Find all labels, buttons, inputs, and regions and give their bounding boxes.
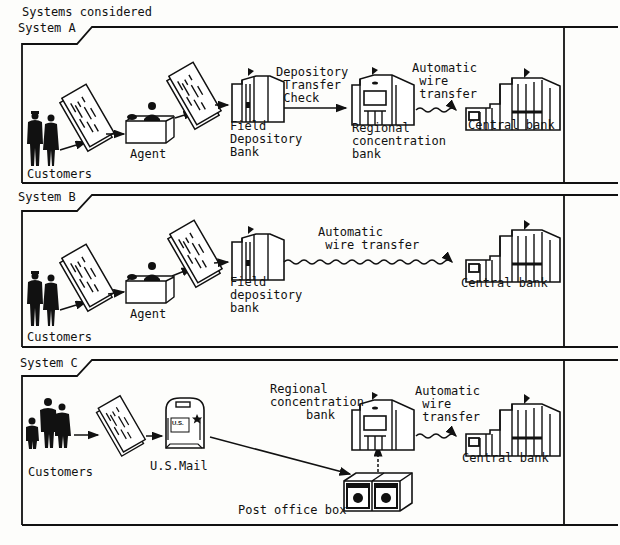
us-mail-label: U.S.Mail [150, 460, 208, 473]
regional-bank-icon [352, 67, 414, 125]
customers-icon [27, 111, 59, 166]
system-b-label: System B [18, 191, 76, 204]
agent-label: Agent [130, 148, 166, 161]
system-a-label: System A [18, 22, 76, 35]
checks-icon [58, 244, 115, 311]
agent-icon [126, 262, 174, 303]
field-depository-bank-icon [232, 226, 284, 280]
customers-label: Customers [27, 168, 92, 181]
central-bank-icon [466, 394, 560, 456]
depository-transfer-check-label: Depository Transfer Check [276, 66, 348, 105]
central-bank-label: Central bank [468, 119, 555, 132]
wire-transfer-label: Automatic wire transfer [318, 226, 419, 252]
checks-icon [95, 396, 146, 456]
central-bank-label: Central bank [461, 277, 548, 290]
regional-bank-label: Regional concentration bank [270, 383, 364, 422]
mailbox-icon: U.S. [166, 398, 204, 448]
customers-label: Customers [27, 331, 92, 344]
field-bank-label: Field Depository Bank [230, 120, 302, 159]
checks-icon [58, 84, 115, 151]
wire-transfer-label: Automatic wire transfer [415, 385, 480, 424]
checks-icon [166, 220, 223, 287]
system-c-label: System C [20, 357, 78, 370]
wire-transfer-label: Automatic wire transfer [412, 62, 477, 101]
regional-bank-label: Regional concentration bank [352, 122, 446, 161]
central-bank-label: Central bank [462, 452, 549, 465]
agent-label: Agent [130, 308, 166, 321]
field-bank-label: Field depository bank [230, 276, 302, 315]
customers-label: Customers [28, 466, 93, 479]
central-bank-icon [466, 220, 560, 282]
post-office-box-icon [344, 473, 412, 511]
agent-icon [126, 102, 174, 143]
diagram-title: Systems considered [22, 6, 152, 19]
svg-text:U.S.: U.S. [172, 420, 184, 426]
customers-family-icon [26, 398, 71, 449]
post-office-box-label: Post office box [238, 504, 346, 517]
customers-icon [27, 271, 59, 326]
